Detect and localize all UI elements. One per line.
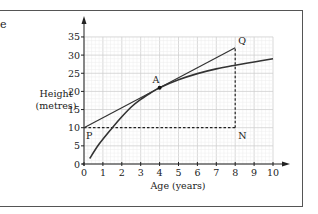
y-tick-label: 0	[74, 159, 80, 170]
grid	[84, 37, 273, 164]
y-tick-label: 25	[68, 68, 80, 79]
y-tick-label: 30	[68, 50, 80, 61]
x-tick-label: 9	[251, 167, 257, 178]
x-axis-label: Age (years)	[149, 180, 205, 191]
y-tick-label: 35	[68, 31, 80, 42]
x-tick-label: 7	[213, 167, 219, 178]
y-axis-label-line2: (metres)	[36, 100, 77, 111]
x-tick-label: 5	[175, 167, 181, 178]
x-tick-label: 8	[232, 167, 238, 178]
x-tick-label: 4	[157, 167, 163, 178]
chart: 01234567891005101520253035 APQN Age (yea…	[0, 0, 318, 214]
x-tick-label: 3	[138, 167, 144, 178]
y-tick-label: 10	[68, 122, 80, 133]
point-label-n: N	[238, 130, 246, 141]
point-label-q: Q	[238, 35, 246, 46]
point-label-a: A	[152, 74, 160, 85]
tick-labels: 01234567891005101520253035	[68, 31, 279, 178]
growth-curve	[90, 59, 273, 159]
x-tick-label: 10	[267, 167, 279, 178]
x-tick-label: 0	[81, 167, 87, 178]
y-axis-label-line1: Height	[40, 88, 73, 99]
point-marker	[158, 86, 162, 90]
x-tick-label: 2	[119, 167, 125, 178]
y-tick-label: 5	[74, 140, 80, 151]
point-label-p: P	[86, 130, 93, 141]
x-tick-label: 1	[100, 167, 106, 178]
x-tick-label: 6	[194, 167, 200, 178]
